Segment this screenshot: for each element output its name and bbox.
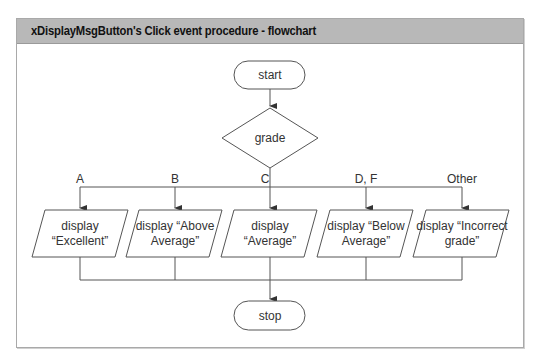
action-average-line2: “Average” (244, 234, 296, 248)
decision-label: grade (255, 131, 286, 145)
branch-label-b: B (171, 172, 179, 186)
action-incorrect-grade: display “Incorrect grade” (413, 210, 509, 257)
branch-label-c: C (261, 172, 270, 186)
branch-label-other: Other (447, 172, 477, 186)
action-above-average-line1: display “Above (136, 219, 215, 233)
action-excellent-line2: “Excellent” (52, 234, 109, 248)
action-average-line1: display (251, 219, 288, 233)
action-incorrect-grade-line1: display “Incorrect (416, 219, 508, 233)
branch-label-a: A (76, 172, 84, 186)
action-average: display “Average” (221, 210, 317, 257)
flowchart-diagram: start grade A B C D, F Other display “Ex… (0, 0, 542, 362)
action-above-average-line2: Average” (151, 234, 199, 248)
action-excellent: display “Excellent” (32, 210, 128, 257)
action-excellent-line1: display (61, 219, 98, 233)
stop-label: stop (259, 309, 282, 323)
action-below-average-line1: display “Below (327, 219, 405, 233)
action-above-average: display “Above Average” (126, 210, 222, 257)
decision-diamond: grade (222, 108, 318, 168)
stop-terminal: stop (234, 301, 305, 330)
action-incorrect-grade-line2: grade” (445, 234, 480, 248)
branch-label-df: D, F (355, 172, 378, 186)
action-below-average-line2: Average” (342, 234, 390, 248)
start-terminal: start (234, 61, 305, 89)
action-below-average: display “Below Average” (317, 210, 413, 257)
start-label: start (258, 68, 282, 82)
